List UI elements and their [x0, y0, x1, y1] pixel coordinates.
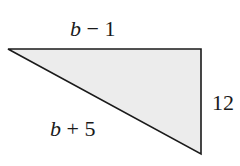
top-side-variable: b: [70, 16, 81, 41]
top-side-constant: 1: [104, 16, 115, 41]
right-triangle: [8, 49, 201, 154]
triangle-diagram: b − 1 b + 5 12: [0, 0, 240, 166]
right-side-label: 12: [212, 90, 234, 115]
hypotenuse-operator: +: [67, 116, 85, 141]
top-side-operator: −: [87, 16, 105, 41]
top-side-label: b − 1: [70, 16, 115, 41]
hypotenuse-label: b + 5: [50, 116, 95, 141]
hypotenuse-variable: b: [50, 116, 61, 141]
hypotenuse-constant: 5: [84, 116, 95, 141]
